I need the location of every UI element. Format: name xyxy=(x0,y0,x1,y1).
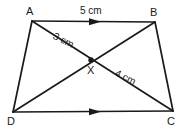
geometry-canvas xyxy=(0,0,190,130)
geometry-figure: A B C D X 5 cm 3 cm 4 cm xyxy=(0,0,190,130)
diagonal-bd-line xyxy=(13,22,155,112)
vertex-label-d: D xyxy=(7,116,15,127)
side-bc-line xyxy=(155,22,173,111)
vertex-label-b: B xyxy=(150,7,157,18)
vertex-label-a: A xyxy=(26,6,33,17)
measurement-label-side-ab: 5 cm xyxy=(80,6,102,16)
parallel-arrow-marker-ab-icon xyxy=(89,18,101,25)
vertex-label-c: C xyxy=(167,116,175,127)
intersection-label-x: X xyxy=(87,65,94,76)
parallel-arrow-marker-dc-icon xyxy=(89,108,101,115)
side-ad-line xyxy=(13,21,32,112)
intersection-point-dot xyxy=(88,57,93,62)
